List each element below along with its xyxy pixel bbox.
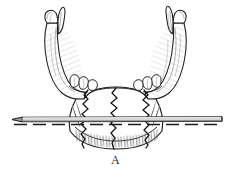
left-molars [69,75,97,92]
figure-container: A [0,0,231,180]
left-condyle [45,10,58,23]
right-molars [134,75,162,92]
transverse-rod [12,117,222,122]
figure-label: A [0,153,231,167]
left-ramus [40,18,92,106]
right-condyle [173,10,186,23]
